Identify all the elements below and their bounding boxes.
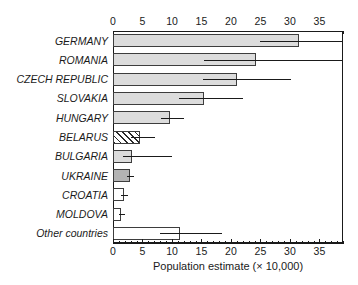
axis-minor-tick	[190, 241, 191, 244]
axis-minor-tick	[343, 31, 344, 34]
error-bar-moldova	[119, 214, 125, 215]
axis-minor-tick	[154, 241, 155, 244]
category-label-other-countries: Other countries	[5, 227, 113, 239]
axis-major-tick	[290, 239, 291, 244]
axis-tick-label: 30	[278, 15, 302, 27]
axis-tick-label: 35	[307, 15, 331, 27]
axis-tick-label: 35	[307, 245, 331, 257]
axis-minor-tick	[272, 241, 273, 244]
axis-minor-tick	[343, 241, 344, 244]
axis-minor-tick	[243, 241, 244, 244]
category-label-czech-republic: CZECH REPUBLIC	[5, 73, 113, 85]
category-label-belarus: BELARUS	[5, 131, 113, 143]
axis-minor-tick	[225, 241, 226, 244]
error-bar-other-countries	[160, 233, 222, 234]
axis-major-tick	[319, 239, 320, 244]
axis-minor-tick	[160, 241, 161, 244]
axis-minor-tick	[166, 241, 167, 244]
category-label-moldova: MOLDOVA	[5, 208, 113, 220]
error-bar-romania	[204, 60, 343, 61]
axis-major-tick	[201, 239, 202, 244]
axis-minor-tick	[219, 241, 220, 244]
axis-minor-tick	[184, 241, 185, 244]
axis-minor-tick	[213, 241, 214, 244]
axis-tick-label: 25	[248, 245, 272, 257]
population-estimate-bar-chart: 05101520253035 GERMANYROMANIACZECH REPUB…	[0, 0, 358, 285]
axis-minor-tick	[302, 241, 303, 244]
axis-minor-tick	[337, 241, 338, 244]
axis-tick-label: 25	[248, 15, 272, 27]
axis-tick-label: 15	[189, 15, 213, 27]
axis-minor-tick	[266, 241, 267, 244]
axis-minor-tick	[125, 241, 126, 244]
axis-minor-tick	[137, 241, 138, 244]
axis-minor-tick	[278, 241, 279, 244]
axis-minor-tick	[249, 241, 250, 244]
axis-tick-label: 0	[101, 245, 125, 257]
axis-tick-label: 30	[278, 245, 302, 257]
category-label-germany: GERMANY	[5, 35, 113, 47]
axis-minor-tick	[207, 241, 208, 244]
axis-minor-tick	[325, 241, 326, 244]
axis-tick-label: 20	[219, 245, 243, 257]
error-bar-belarus	[131, 137, 155, 138]
category-label-bulgaria: BULGARIA	[5, 150, 113, 162]
category-label-croatia: CROATIA	[5, 189, 113, 201]
axis-minor-tick	[148, 241, 149, 244]
axis-minor-tick	[131, 241, 132, 244]
x-axis-title: Population estimate (× 10,000)	[113, 260, 343, 272]
axis-minor-tick	[284, 241, 285, 244]
bars-layer	[113, 31, 343, 243]
category-axis-labels: GERMANYROMANIACZECH REPUBLICSLOVAKIAHUNG…	[0, 31, 113, 243]
axis-tick-label: 5	[130, 15, 154, 27]
axis-major-tick	[172, 239, 173, 244]
axis-minor-tick	[119, 241, 120, 244]
axis-tick-label: 20	[219, 15, 243, 27]
error-bar-bulgaria	[123, 156, 172, 157]
error-bar-hungary	[161, 118, 183, 119]
axis-minor-tick	[178, 241, 179, 244]
category-label-hungary: HUNGARY	[5, 112, 113, 124]
category-label-ukraine: UKRAINE	[5, 170, 113, 182]
axis-tick-label: 10	[160, 245, 184, 257]
axis-minor-tick	[296, 241, 297, 244]
category-label-slovakia: SLOVAKIA	[5, 92, 113, 104]
axis-major-tick	[113, 239, 114, 244]
axis-major-tick	[142, 239, 143, 244]
axis-minor-tick	[255, 241, 256, 244]
axis-tick-label: 15	[189, 245, 213, 257]
axis-minor-tick	[196, 241, 197, 244]
axis-tick-label: 10	[160, 15, 184, 27]
axis-minor-tick	[237, 241, 238, 244]
axis-tick-label: 0	[101, 15, 125, 27]
error-bar-czech-republic	[203, 79, 291, 80]
error-bar-croatia	[121, 195, 129, 196]
category-label-romania: ROMANIA	[5, 54, 113, 66]
error-bar-germany	[260, 41, 343, 42]
error-bar-slovakia	[179, 98, 243, 99]
axis-tick-label: 5	[130, 245, 154, 257]
axis-major-tick	[260, 239, 261, 244]
axis-minor-tick	[331, 241, 332, 244]
error-bar-ukraine	[127, 176, 135, 177]
axis-minor-tick	[308, 241, 309, 244]
axis-minor-tick	[314, 241, 315, 244]
axis-major-tick	[231, 239, 232, 244]
